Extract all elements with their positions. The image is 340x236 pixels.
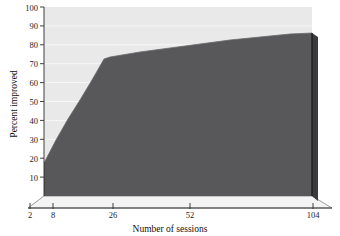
y-tick-label-40: 40 [30,116,39,126]
y-tick-label-60: 60 [30,78,39,88]
y-tick-label-80: 80 [30,40,39,50]
y-tick-label-30: 30 [30,135,39,145]
y-tick-label-90: 90 [30,21,39,31]
y-tick-label-20: 20 [30,154,39,164]
y-tick-label-70: 70 [30,59,39,69]
x-axis-title: Number of sessions [133,224,208,234]
x-tick-label-26: 26 [109,210,118,220]
y-tick-label-50: 50 [30,97,39,107]
area-side-face [312,33,318,201]
area-chart: 100 90 80 70 60 50 40 30 20 10 Percent i… [0,0,340,236]
y-tick-label-100: 100 [25,3,38,13]
x-tick-label-8: 8 [51,210,55,220]
x-tick-label-104: 104 [307,210,321,220]
floor-slab [28,196,332,208]
chart-canvas: 100 90 80 70 60 50 40 30 20 10 Percent i… [0,0,340,236]
x-tick-label-2: 2 [28,210,32,220]
y-axis-title: Percent improved [9,70,19,138]
x-tick-label-52: 52 [186,210,195,220]
y-tick-label-10: 10 [30,173,39,183]
